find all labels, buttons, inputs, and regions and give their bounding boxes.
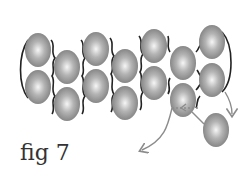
bead	[25, 70, 51, 104]
bead	[25, 33, 51, 67]
bead	[170, 46, 196, 80]
bead	[112, 86, 138, 120]
bead	[83, 32, 109, 66]
bead	[83, 69, 109, 103]
bead	[54, 50, 80, 84]
bead	[199, 63, 225, 97]
bead	[54, 87, 80, 121]
bead	[112, 49, 138, 83]
bead	[141, 66, 167, 100]
figure-caption: fig 7	[20, 140, 70, 165]
bead	[199, 25, 225, 59]
bead	[203, 113, 229, 147]
bead	[141, 29, 167, 63]
